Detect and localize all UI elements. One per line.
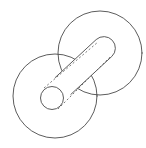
diagram-root: Two overlapping circles with diagonal ro… [0,0,146,148]
geometry-diagram [0,0,146,148]
